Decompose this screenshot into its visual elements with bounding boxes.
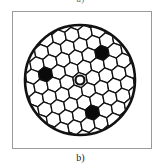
lattice-cell: [76, 130, 90, 145]
fiber-cross-section: [0, 0, 161, 168]
center-ring-hole: [73, 72, 87, 87]
figure-caption: b): [0, 152, 161, 163]
lattice-cell: [120, 111, 134, 126]
center-ring-icon: [76, 76, 85, 85]
